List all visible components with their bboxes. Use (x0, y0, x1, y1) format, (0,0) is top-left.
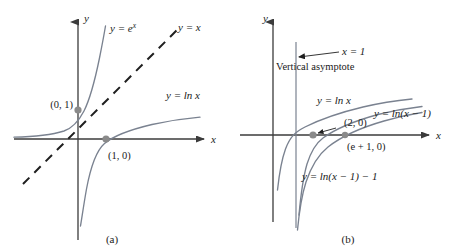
label-curve-ln: y = ln x (316, 94, 351, 106)
panel-a-x-axis-label: x (210, 133, 216, 145)
points-panel-a (74, 106, 109, 142)
point-2-0 (309, 131, 316, 138)
label-curve-ln: y = ln x (165, 89, 200, 101)
axes-panel-a (14, 22, 204, 240)
label-curve-exp: y = ex (109, 21, 137, 34)
label-point-0-1: (0, 1) (50, 99, 73, 111)
label-curve-exp-main: y = e (109, 22, 133, 34)
curve-ln (81, 117, 201, 226)
panel-a: y x y = ex y = x y = ln x (0, 1) (1, 0) … (0, 0, 232, 252)
label-curve-ln-shift: y = ln(x − 1) (373, 107, 431, 120)
panel-b: y x x = 1 Vertical asymptote y = ln x y … (232, 0, 463, 252)
point-0-1 (74, 106, 81, 113)
label-asymptote-note: Vertical asymptote (276, 61, 355, 72)
label-curve-ln-shift-down: y = ln(x − 1) − 1 (301, 170, 377, 183)
point-1-0 (102, 135, 109, 142)
label-point-2-0: (2, 0) (344, 117, 367, 129)
label-asymptote: x = 1 (341, 45, 365, 57)
asymptote-callout-arrow (299, 52, 339, 57)
figure-container: y x y = ex y = x y = ln x (0, 1) (1, 0) … (0, 0, 463, 252)
panel-b-x-axis-label: x (435, 129, 441, 141)
label-curve-exp-sup: x (132, 21, 137, 30)
point-e-plus-1-0 (342, 132, 348, 138)
panel-a-caption: (a) (106, 233, 119, 246)
axes-panel-b (240, 22, 429, 222)
label-point-1-0: (1, 0) (108, 150, 131, 162)
panel-a-y-axis-label: y (83, 12, 89, 24)
label-curve-identity: y = x (177, 21, 201, 33)
panel-b-y-axis-label: y (262, 12, 268, 24)
curve-exp (14, 26, 106, 137)
panel-b-caption: (b) (342, 233, 355, 246)
label-point-e-plus-1-0: (e + 1, 0) (347, 141, 386, 153)
